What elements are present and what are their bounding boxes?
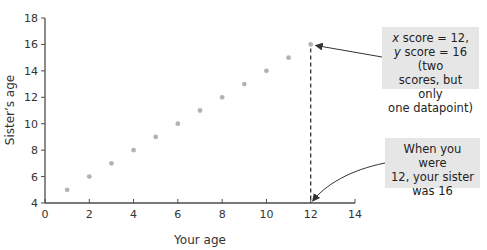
callout-line: 12, your sister [391,170,474,184]
axis-callout: When you were 12, your sister was 16 [385,138,480,188]
y-tick-label: 12 [24,91,38,104]
annotation-arrows [313,45,385,201]
data-point [308,42,313,47]
callout-line: x score = 12, [388,31,473,45]
data-points [65,42,313,192]
datapoint-arrow [316,45,382,57]
data-point [242,82,247,87]
callout-line: When you were [391,142,474,170]
y-tick-label: 16 [24,38,38,51]
x-tick-label: 8 [219,208,226,221]
callout-line: was 16 [391,184,474,198]
x-tick-label: 6 [174,208,181,221]
data-point [131,148,136,153]
y-tick-label: 10 [24,118,38,131]
y-tick-label: 18 [24,12,38,25]
data-point [220,95,225,100]
data-point [286,55,291,60]
data-point [109,161,114,166]
data-point [175,121,180,126]
data-point [65,187,70,192]
y-tick-label: 14 [24,65,38,78]
x-tick-label: 14 [348,208,362,221]
y-tick-label: 6 [31,171,38,184]
x-tick-label: 0 [42,208,49,221]
y-tick-label: 4 [31,197,38,210]
data-point [198,108,203,113]
callout-line: y score = 16 (two [388,45,473,73]
x-tick-label: 12 [304,208,318,221]
datapoint-callout: x score = 12, y score = 16 (two scores, … [382,27,479,89]
callout-line: scores, but only [388,73,473,101]
callout-line: one datapoint) [388,101,473,115]
x-tick-label: 10 [259,208,273,221]
x-tick-label: 2 [86,208,93,221]
axis-arrow [313,163,385,201]
y-axis-title: Sister’s age [3,75,17,145]
x-tick-label: 4 [130,208,137,221]
data-point [87,174,92,179]
x-axis-title: Your age [173,233,226,247]
y-tick-label: 8 [31,144,38,157]
data-point [153,135,158,140]
data-point [264,68,269,73]
